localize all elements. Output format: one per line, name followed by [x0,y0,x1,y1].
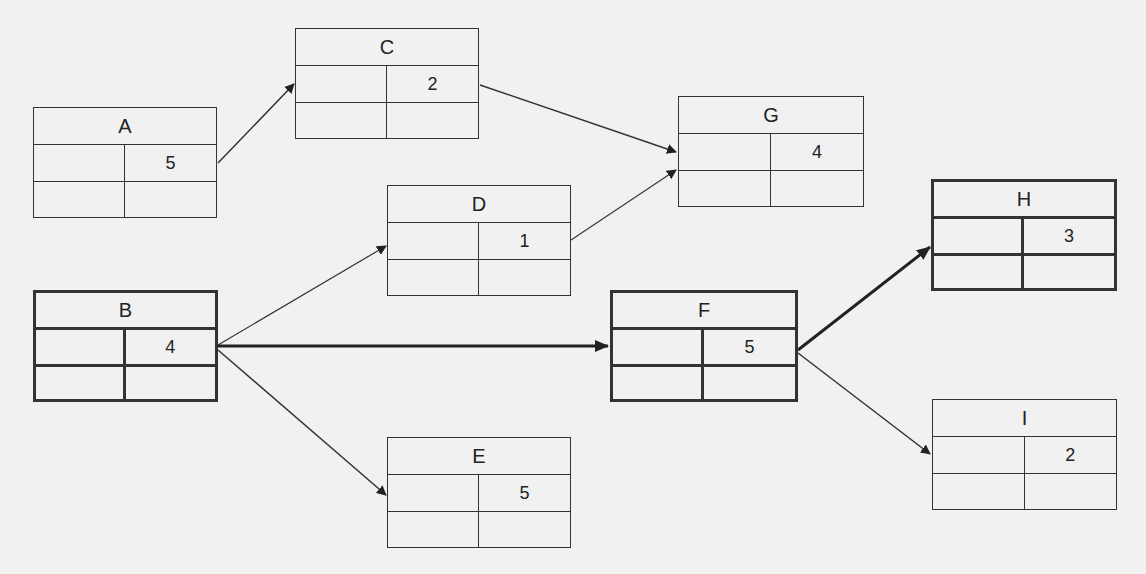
edge-a-c [218,84,294,163]
node-a: A 5 [33,107,217,218]
edge-f-h [798,247,930,350]
node-f-ls [613,367,704,399]
node-g-es [679,134,771,171]
node-g-title: G [679,97,863,134]
node-f-lf [704,367,795,399]
node-c-title: C [296,29,478,66]
edge-c-g [480,85,676,152]
node-h-lf [1024,256,1114,288]
edge-f-i [798,353,930,454]
node-e-es [388,475,479,512]
node-h-duration: 3 [1024,219,1114,256]
node-d-duration: 1 [479,223,570,260]
node-c: C 2 [295,28,479,139]
node-a-ls [34,182,125,217]
node-c-ls [296,103,387,138]
node-i-ls [933,474,1025,509]
node-a-duration: 5 [125,145,216,182]
node-d-es [388,223,479,260]
node-f: F 5 [610,290,798,402]
node-e-ls [388,512,479,547]
node-f-es [613,330,704,367]
node-b-lf [126,367,216,399]
edge-b-d [218,246,386,345]
node-i: I 2 [932,399,1117,510]
node-e-lf [479,512,570,547]
node-h-title: H [934,182,1114,219]
node-e-title: E [388,438,570,475]
node-b-ls [36,367,126,399]
node-b: B 4 [33,290,218,402]
node-c-es [296,66,387,103]
edge-d-g [571,170,676,240]
node-b-title: B [36,293,215,330]
node-e-duration: 5 [479,475,570,512]
node-g-ls [679,171,771,206]
node-c-duration: 2 [387,66,478,103]
node-i-title: I [933,400,1116,437]
node-d: D 1 [387,185,571,296]
node-h-ls [934,256,1024,288]
node-a-title: A [34,108,216,145]
node-h-es [934,219,1024,256]
node-f-duration: 5 [704,330,795,367]
node-i-es [933,437,1025,474]
node-a-lf [125,182,216,217]
node-d-title: D [388,186,570,223]
node-c-lf [387,103,478,138]
node-g: G 4 [678,96,864,207]
node-a-es [34,145,125,182]
node-i-lf [1025,474,1117,509]
edge-b-e [218,350,386,495]
node-g-lf [771,171,863,206]
node-f-title: F [613,293,795,330]
node-e: E 5 [387,437,571,548]
node-i-duration: 2 [1025,437,1117,474]
node-d-lf [479,260,570,295]
node-b-es [36,330,126,367]
node-g-duration: 4 [771,134,863,171]
node-h: H 3 [931,179,1117,291]
node-d-ls [388,260,479,295]
node-b-duration: 4 [126,330,216,367]
